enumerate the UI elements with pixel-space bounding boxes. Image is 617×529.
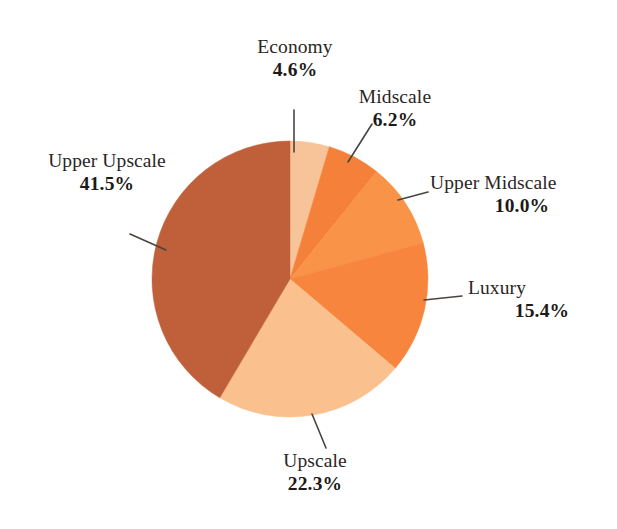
slice-label-luxury-percent: 15.4%: [468, 300, 616, 323]
slice-label-upscale-category: Upscale: [220, 450, 410, 473]
leader-line-luxury: [424, 296, 462, 300]
slice-label-economy: Economy 4.6%: [200, 36, 390, 82]
slice-label-luxury: Luxury 15.4%: [468, 277, 616, 323]
slice-label-luxury-category: Luxury: [468, 277, 616, 300]
slice-label-economy-percent: 4.6%: [200, 59, 390, 82]
slice-label-upper-upscale-category: Upper Upscale: [12, 150, 202, 173]
slice-label-upscale: Upscale 22.3%: [220, 450, 410, 496]
slice-label-upper-midscale: Upper Midscale 10.0%: [430, 172, 614, 218]
slice-label-upscale-percent: 22.3%: [220, 473, 410, 496]
slice-label-upper-upscale: Upper Upscale 41.5%: [12, 150, 202, 196]
slice-label-upper-midscale-category: Upper Midscale: [430, 172, 614, 195]
slice-label-midscale-percent: 6.2%: [300, 109, 490, 132]
slice-label-economy-category: Economy: [200, 36, 390, 59]
slice-label-midscale-category: Midscale: [300, 86, 490, 109]
pie-chart: Economy 4.6% Midscale 6.2% Upper Midscal…: [0, 0, 617, 529]
slice-label-upper-midscale-percent: 10.0%: [430, 195, 614, 218]
slice-label-midscale: Midscale 6.2%: [300, 86, 490, 132]
leader-line-upscale: [312, 414, 326, 448]
leader-line-upper-midscale: [398, 192, 428, 200]
slice-label-upper-upscale-percent: 41.5%: [12, 173, 202, 196]
